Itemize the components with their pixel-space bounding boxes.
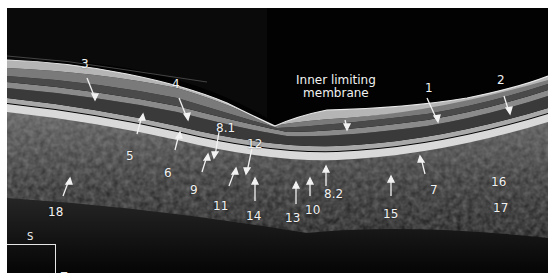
label-3: 3 — [81, 58, 89, 70]
label-8-1: 8.1 — [216, 122, 235, 134]
label-inner-limiting-membrane: Inner limiting membrane — [296, 74, 376, 100]
label-5: 5 — [126, 150, 134, 162]
label-13: 13 — [285, 212, 300, 224]
label-9: 9 — [190, 184, 198, 196]
label-6: 6 — [164, 167, 172, 179]
orientation-box — [7, 244, 56, 273]
label-8-2: 8.2 — [324, 188, 343, 200]
orientation-superior-label: S — [27, 231, 33, 242]
label-17: 17 — [493, 202, 508, 214]
label-15: 15 — [383, 208, 398, 220]
ilm-line-2: membrane — [296, 87, 376, 100]
oct-scan-image: 3 4 5 6 8.1 12 9 11 14 13 10 8.2 15 7 16… — [7, 8, 548, 273]
label-14: 14 — [246, 210, 261, 222]
label-10: 10 — [305, 204, 320, 216]
label-16: 16 — [491, 176, 506, 188]
orientation-indicator: S T — [7, 244, 57, 273]
orientation-temporal-label: T — [61, 271, 67, 273]
label-7: 7 — [430, 184, 438, 196]
label-4: 4 — [172, 78, 180, 90]
label-1: 1 — [425, 82, 433, 94]
label-18: 18 — [48, 206, 63, 218]
label-2: 2 — [497, 74, 505, 86]
label-12: 12 — [247, 138, 262, 150]
retina-layers-graphic — [7, 8, 548, 273]
label-11: 11 — [213, 200, 228, 212]
